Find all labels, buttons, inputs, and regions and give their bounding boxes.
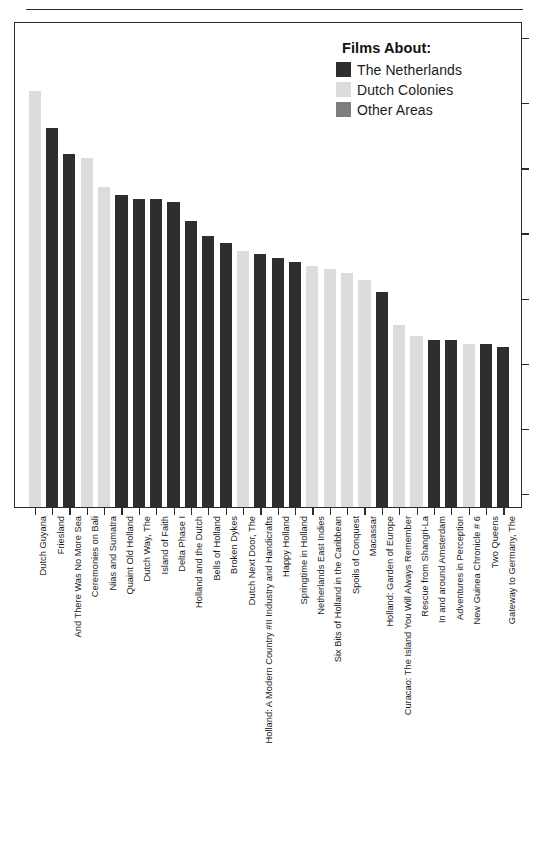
bar [237,251,249,507]
y-axis-tick [522,299,529,300]
x-axis-tick [191,508,192,515]
x-axis-tick [139,508,140,515]
x-axis-tick [364,508,365,515]
x-axis-label-text: Springtime in Holland [299,516,309,604]
x-axis-label-text: Six Bits of Holland in the Caribbean [333,516,343,662]
x-axis-label: Adventures in Perception [455,516,465,620]
x-axis-label: New Guinea Chronicle # 6 [472,516,482,625]
x-axis-tick [87,508,88,515]
legend-swatch-colonies [336,82,351,97]
x-axis-tick [208,508,209,515]
x-axis-label-text: Happy Holland [281,516,291,577]
x-axis-label: Rescue from Shangri-La [420,516,430,617]
x-axis-label: Nias and Sumatra [108,516,118,590]
chart-legend: Films About: The Netherlands Dutch Colon… [336,40,521,120]
x-axis-tick [278,508,279,515]
bar [202,236,214,507]
x-axis-label-text: Friesland [56,516,66,554]
legend-label-other: Other Areas [357,102,433,118]
x-axis-label-text: Two Queens [490,516,500,568]
bar [254,254,266,507]
x-axis-tick [35,508,36,515]
bar [376,292,388,507]
x-axis-label-text: New Guinea Chronicle # 6 [472,516,482,625]
bar [445,340,457,507]
x-axis-labels: Dutch GuyanaFrieslandAnd There Was No Mo… [14,516,522,836]
bar [98,187,110,507]
x-axis-label-text: Holland: A Modern Country #II Industry a… [264,516,274,743]
x-axis-label-text: Netherlands East Indies [316,516,326,615]
y-axis-tick [522,38,529,39]
legend-swatch-netherlands [336,62,351,77]
x-axis-label-text: In and around Amsterdam [437,516,447,623]
x-axis-label-text: Delta Phase I [177,516,187,572]
bar [220,243,232,507]
x-axis-label-text: Ceremonies on Bali [90,516,100,597]
bar [410,336,422,507]
x-axis-tick [486,508,487,515]
bar [29,91,41,507]
x-axis-label: Island of Faith [160,516,170,574]
x-axis-ticks [14,508,522,516]
x-axis-label-text: And There Was No More Sea [73,516,83,637]
bar [46,128,58,507]
bar [497,347,509,507]
x-axis-label: Quaint Old Holland [125,516,135,595]
x-axis-tick [399,508,400,515]
x-axis-label: Holland: Garden of Europe [385,516,395,627]
legend-title: Films About: [342,40,521,56]
page-header-text [36,0,516,3]
x-axis-label: Bells of Holland [212,516,222,581]
x-axis-tick [417,508,418,515]
bar [81,158,93,507]
bar [463,344,475,507]
x-axis-label-text: Broken Dykes [229,516,239,574]
x-axis-label: Friesland [56,516,66,554]
x-axis-tick [260,508,261,515]
x-axis-label-text: Gateway to Germany, The [507,516,517,624]
x-axis-label-text: Bells of Holland [212,516,222,581]
x-axis-tick [330,508,331,515]
x-axis-label: Gateway to Germany, The [507,516,517,624]
x-axis-tick [503,508,504,515]
x-axis-label: And There Was No More Sea [73,516,83,637]
x-axis-tick [226,508,227,515]
x-axis-label: Dutch Next Door, The [247,516,257,605]
x-axis-tick [69,508,70,515]
legend-item-netherlands: The Netherlands [336,60,521,79]
header-divider [26,9,523,10]
bar [428,340,440,507]
x-axis-tick [121,508,122,515]
x-axis-tick [382,508,383,515]
bar [63,154,75,507]
x-axis-tick [451,508,452,515]
x-axis-label-text: Dutch Way, The [142,516,152,581]
y-axis-tick [522,103,529,104]
x-axis-tick [104,508,105,515]
bar [167,202,179,507]
legend-swatch-other [336,102,351,117]
bar [341,273,353,507]
bar [306,266,318,508]
x-axis-label-text: Adventures in Perception [455,516,465,620]
x-axis-label: Happy Holland [281,516,291,577]
bar [324,269,336,507]
x-axis-label: Two Queens [490,516,500,568]
x-axis-label-text: Holland: Garden of Europe [385,516,395,627]
bar [133,199,145,507]
x-axis-label-text: Holland and the Dutch [194,516,204,608]
x-axis-tick [312,508,313,515]
x-axis-label-text: Island of Faith [160,516,170,574]
x-axis-label-text: Curacao: The Island You Will Always Reme… [403,516,413,715]
x-axis-tick [174,508,175,515]
x-axis-label: In and around Amsterdam [437,516,447,623]
bar [393,325,405,507]
y-axis-tick [522,494,529,495]
x-axis-label: Ceremonies on Bali [90,516,100,597]
x-axis-label: Six Bits of Holland in the Caribbean [333,516,343,662]
bar [115,195,127,507]
bar [289,262,301,507]
x-axis-label-text: Nias and Sumatra [108,516,118,590]
legend-label-colonies: Dutch Colonies [357,82,453,98]
bar [480,344,492,507]
